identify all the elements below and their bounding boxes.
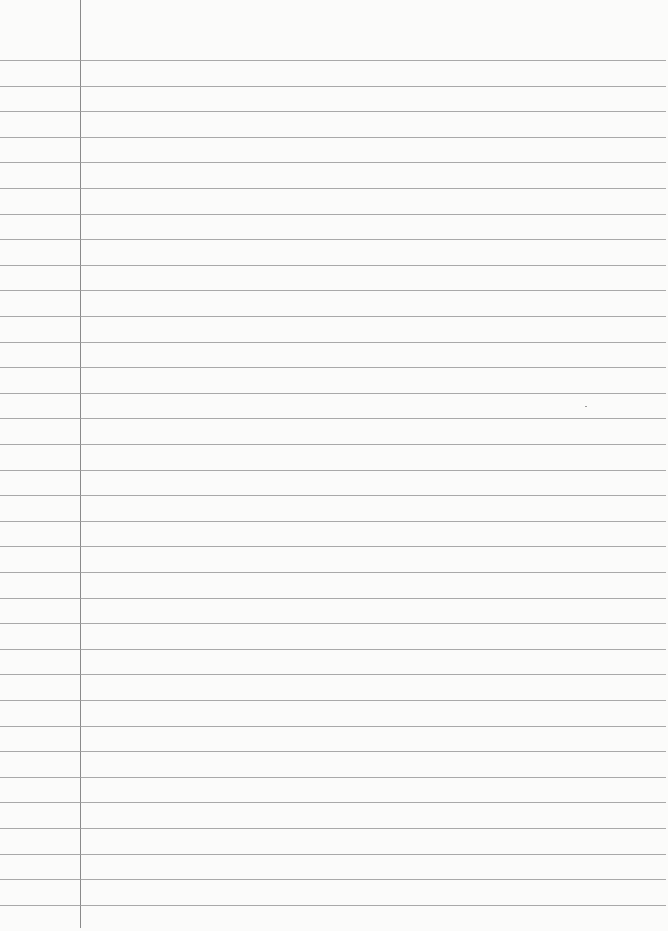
ruled-line — [0, 726, 666, 727]
paper-speck — [585, 406, 587, 407]
ruled-line — [0, 777, 666, 778]
ruled-line — [0, 879, 666, 880]
ruled-line — [0, 623, 666, 624]
ruled-line — [0, 598, 666, 599]
ruled-line — [0, 111, 666, 112]
ruled-line — [0, 649, 666, 650]
ruled-line — [0, 188, 666, 189]
ruled-line — [0, 393, 666, 394]
ruled-line — [0, 572, 666, 573]
ruled-paper — [0, 0, 668, 931]
ruled-line — [0, 214, 666, 215]
ruled-line — [0, 905, 666, 906]
ruled-line — [0, 60, 666, 61]
ruled-line — [0, 162, 666, 163]
ruled-line — [0, 418, 666, 419]
ruled-line — [0, 495, 666, 496]
ruled-line — [0, 239, 666, 240]
ruled-line — [0, 367, 666, 368]
ruled-line — [0, 674, 666, 675]
margin-line — [80, 0, 81, 928]
ruled-line — [0, 854, 666, 855]
ruled-line — [0, 316, 666, 317]
ruled-line — [0, 546, 666, 547]
ruled-line — [0, 290, 666, 291]
ruled-line — [0, 265, 666, 266]
ruled-line — [0, 444, 666, 445]
ruled-line — [0, 86, 666, 87]
ruled-line — [0, 342, 666, 343]
ruled-line — [0, 828, 666, 829]
ruled-line — [0, 751, 666, 752]
ruled-line — [0, 700, 666, 701]
ruled-line — [0, 137, 666, 138]
ruled-line — [0, 470, 666, 471]
ruled-line — [0, 521, 666, 522]
ruled-line — [0, 802, 666, 803]
